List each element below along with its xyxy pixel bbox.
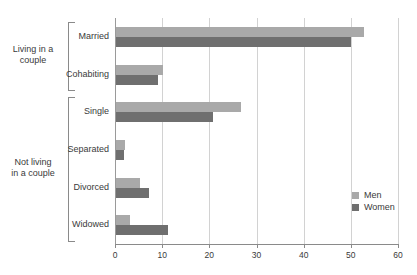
x-tick-label: 0 bbox=[113, 250, 118, 260]
bar-chart: Living in a coupleNot living in a couple… bbox=[0, 0, 417, 275]
bar-men-divorced bbox=[116, 178, 140, 188]
tick-mark bbox=[304, 244, 305, 248]
tick-mark bbox=[115, 244, 116, 248]
bar-women-married bbox=[116, 37, 351, 47]
category-label-married: Married bbox=[0, 31, 109, 41]
category-label-cohabiting: Cohabiting bbox=[0, 69, 109, 79]
legend-swatch-icon-women bbox=[352, 204, 359, 211]
category-label-single: Single bbox=[0, 106, 109, 116]
gridline bbox=[209, 18, 210, 244]
x-tick-label: 10 bbox=[157, 250, 166, 260]
y-axis-line bbox=[115, 18, 116, 244]
bar-men-married bbox=[116, 27, 364, 37]
bar-men-separated bbox=[116, 140, 125, 150]
gridline bbox=[304, 18, 305, 244]
group-label-0: Living in a couple bbox=[2, 44, 64, 66]
tick-mark bbox=[257, 244, 258, 248]
legend-label: Women bbox=[364, 202, 395, 212]
category-label-widowed: Widowed bbox=[0, 219, 109, 229]
bar-women-widowed bbox=[116, 225, 168, 235]
tick-mark bbox=[351, 244, 352, 248]
gridline bbox=[398, 18, 399, 244]
legend-item-women[interactable]: Women bbox=[352, 201, 395, 213]
gridline bbox=[257, 18, 258, 244]
tick-mark bbox=[398, 244, 399, 248]
category-label-separated: Separated bbox=[0, 144, 109, 154]
group-label-1: Not living in a couple bbox=[2, 157, 64, 179]
legend-label: Men bbox=[364, 190, 382, 200]
category-label-divorced: Divorced bbox=[0, 182, 109, 192]
x-tick-label: 30 bbox=[252, 250, 261, 260]
bar-men-cohabiting bbox=[116, 65, 163, 75]
x-tick-label: 60 bbox=[393, 250, 402, 260]
x-tick-label: 20 bbox=[205, 250, 214, 260]
x-tick-label: 50 bbox=[346, 250, 355, 260]
bar-women-separated bbox=[116, 150, 124, 160]
bar-men-widowed bbox=[116, 215, 130, 225]
gridline bbox=[162, 18, 163, 244]
legend-swatch-icon-men bbox=[352, 192, 359, 199]
bar-women-cohabiting bbox=[116, 75, 158, 85]
x-tick-label: 40 bbox=[299, 250, 308, 260]
bar-women-single bbox=[116, 112, 213, 122]
bar-men-single bbox=[116, 102, 241, 112]
legend-item-men[interactable]: Men bbox=[352, 189, 395, 201]
bar-women-divorced bbox=[116, 188, 149, 198]
legend: MenWomen bbox=[352, 189, 395, 213]
tick-mark bbox=[162, 244, 163, 248]
tick-mark bbox=[209, 244, 210, 248]
